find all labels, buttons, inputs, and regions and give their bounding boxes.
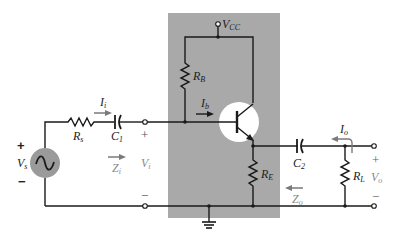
- re-bottom-node: [251, 204, 255, 208]
- c2-label: C2: [293, 156, 305, 171]
- vo-label: Vo: [371, 170, 382, 185]
- vi-minus-terminal: [143, 204, 148, 209]
- ii-arrow: [94, 110, 112, 116]
- vo-minus-sign: −: [372, 189, 379, 204]
- rs-label: Rs: [72, 129, 83, 144]
- c1-label: C1: [111, 129, 123, 144]
- vi-plus-sign: +: [141, 127, 148, 142]
- vi-minus-sign: −: [141, 188, 148, 203]
- ac-source: [30, 148, 60, 178]
- vs-label: Vs: [17, 156, 27, 171]
- rs-resistor: [65, 118, 114, 126]
- io-label: Io: [339, 122, 348, 137]
- zi-label: Zi: [112, 161, 121, 176]
- vo-minus-terminal: [372, 204, 377, 209]
- vs-minus-sign: −: [18, 174, 26, 189]
- vi-label: Vi: [141, 156, 151, 171]
- zo-label: Zo: [292, 192, 303, 207]
- vo-plus-sign: +: [372, 152, 379, 167]
- rl-label: RL: [352, 169, 365, 184]
- zi-arrow: [108, 154, 126, 160]
- zo-arrow: [285, 185, 303, 191]
- rl-resistor: [341, 146, 349, 206]
- vo-plus-terminal: [372, 144, 377, 149]
- io-arrow: [331, 136, 352, 153]
- rl-bottom-node: [343, 204, 347, 208]
- vs-plus-sign: +: [17, 138, 25, 153]
- base-node: [183, 120, 187, 124]
- source-left-wire: [45, 122, 65, 148]
- ii-label: Ii: [99, 95, 106, 110]
- vi-plus-terminal: [143, 120, 148, 125]
- emitter-follower-circuit: VCC RB Ib RE C2 Zo Io: [0, 0, 403, 246]
